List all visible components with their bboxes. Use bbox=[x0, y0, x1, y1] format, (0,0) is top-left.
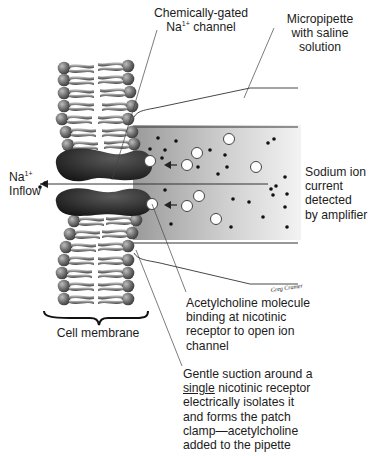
pipette-label-line1: Micropipette bbox=[272, 12, 368, 26]
suction-label-line3: electrically isolates it bbox=[183, 395, 312, 409]
suction-line2-rest: nicotinic receptor bbox=[215, 381, 311, 395]
acetylcholine-label-line2: binding at nicotinic bbox=[186, 310, 310, 324]
current-label-line3: detected bbox=[305, 193, 367, 207]
acetylcholine-label-line4: channel bbox=[186, 339, 310, 353]
pipette-label: Micropipette with saline solution bbox=[272, 12, 368, 55]
inflow-label-line1: Na1+ bbox=[9, 170, 41, 184]
na-text: Na bbox=[9, 170, 25, 184]
pipette-label-line3: solution bbox=[272, 40, 368, 54]
acetylcholine-label-line1: Acetylcholine molecule bbox=[186, 296, 310, 310]
suction-label-line5: clamp—acetylcholine bbox=[183, 424, 312, 438]
charge-superscript: 1+ bbox=[182, 20, 190, 27]
current-label-line1: Sodium ion bbox=[305, 165, 367, 179]
pipette-label-line2: with saline bbox=[272, 26, 368, 40]
membrane-brace bbox=[44, 311, 148, 325]
channel-label-line2: Na1+ channel bbox=[146, 20, 256, 34]
acetylcholine-label-line3: receptor to open ion bbox=[186, 324, 310, 338]
inflow-label-line2: Inflow bbox=[9, 184, 41, 198]
suction-label-line4: and forms the patch bbox=[183, 410, 312, 424]
suction-label-line2: single nicotinic receptor bbox=[183, 381, 312, 395]
suction-label-line6: added to the pipette bbox=[183, 438, 312, 452]
charge-superscript: 1+ bbox=[25, 170, 33, 177]
acetylcholine-label: Acetylcholine molecule binding at nicoti… bbox=[186, 296, 310, 353]
channel-label: Chemically-gated Na1+ channel bbox=[146, 6, 256, 34]
inflow-label: Na1+ Inflow bbox=[9, 170, 41, 198]
current-label: Sodium ion current detected by amplifier bbox=[305, 165, 367, 222]
single-emphasis: single bbox=[183, 381, 215, 395]
cell-membrane bbox=[56, 60, 143, 306]
current-label-line2: current bbox=[305, 179, 367, 193]
na-text: Na bbox=[166, 20, 182, 34]
channel-label-line1: Chemically-gated bbox=[146, 6, 256, 20]
membrane-label: Cell membrane bbox=[46, 326, 150, 340]
current-label-line4: by amplifier bbox=[305, 208, 367, 222]
suction-label-line1: Gentle suction around a bbox=[183, 367, 312, 381]
suction-label: Gentle suction around a single nicotinic… bbox=[183, 367, 312, 452]
channel-text: channel bbox=[190, 20, 236, 34]
